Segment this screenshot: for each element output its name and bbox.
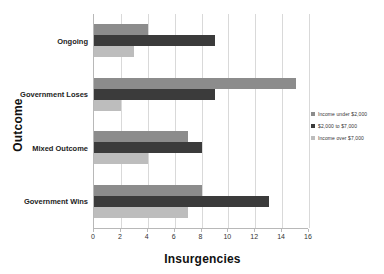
x-tick-label: 2 xyxy=(118,233,122,240)
bar[interactable] xyxy=(94,142,202,153)
x-tick xyxy=(93,229,94,232)
bar-group: Mixed Outcome xyxy=(94,125,308,171)
bar-row xyxy=(94,100,308,111)
x-tick xyxy=(120,229,121,232)
bar-row xyxy=(94,185,308,196)
legend-label: Income over $7,000 xyxy=(318,135,364,141)
x-axis: 0246810121416 xyxy=(93,228,308,247)
bar-row xyxy=(94,131,308,142)
bar-row xyxy=(94,24,308,35)
legend-item[interactable]: $2,000 to $7,000 xyxy=(311,123,383,129)
bar-groups: OngoingGovernment LosesMixed OutcomeGove… xyxy=(94,14,308,228)
bar-chart: Outcome OngoingGovernment LosesMixed Out… xyxy=(0,0,384,274)
legend-swatch-icon xyxy=(311,112,315,116)
x-tick xyxy=(254,229,255,232)
bar[interactable] xyxy=(94,100,121,111)
bar-row xyxy=(94,78,308,89)
x-axis-title: Insurgencies xyxy=(95,252,310,266)
category-label: Government Loses xyxy=(20,90,88,99)
bar[interactable] xyxy=(94,196,269,207)
legend-swatch-icon xyxy=(311,124,315,128)
x-tick-label: 10 xyxy=(223,233,231,240)
x-tick xyxy=(201,229,202,232)
bar[interactable] xyxy=(94,89,215,100)
category-label: Mixed Outcome xyxy=(32,143,88,152)
legend-item[interactable]: Income under $2,000 xyxy=(311,111,383,117)
x-tick-label: 8 xyxy=(199,233,203,240)
legend-label: $2,000 to $7,000 xyxy=(318,123,357,129)
bar-row xyxy=(94,196,308,207)
x-tick xyxy=(281,229,282,232)
x-tick-label: 16 xyxy=(304,233,312,240)
bar[interactable] xyxy=(94,24,148,35)
gridline xyxy=(309,14,310,228)
bar[interactable] xyxy=(94,78,296,89)
x-tick xyxy=(308,229,309,232)
legend-swatch-icon xyxy=(311,136,315,140)
bar[interactable] xyxy=(94,35,215,46)
category-label: Ongoing xyxy=(57,36,88,45)
bar-row xyxy=(94,46,308,57)
plot-area: OngoingGovernment LosesMixed OutcomeGove… xyxy=(93,14,308,228)
bar[interactable] xyxy=(94,153,148,164)
x-tick-label: 14 xyxy=(277,233,285,240)
bar-group: Government Loses xyxy=(94,71,308,117)
legend-label: Income under $2,000 xyxy=(318,111,367,117)
bar-group: Ongoing xyxy=(94,18,308,64)
x-tick xyxy=(147,229,148,232)
legend-item[interactable]: Income over $7,000 xyxy=(311,135,383,141)
x-tick-label: 4 xyxy=(145,233,149,240)
bar-row xyxy=(94,207,308,218)
x-tick-label: 0 xyxy=(91,233,95,240)
bar-row xyxy=(94,153,308,164)
bar[interactable] xyxy=(94,185,202,196)
bar-row xyxy=(94,35,308,46)
x-tick xyxy=(227,229,228,232)
legend: Income under $2,000$2,000 to $7,000Incom… xyxy=(311,111,383,147)
x-tick-label: 6 xyxy=(172,233,176,240)
bar-group: Government Wins xyxy=(94,178,308,224)
x-tick-label: 12 xyxy=(250,233,258,240)
bar-row xyxy=(94,89,308,100)
category-label: Government Wins xyxy=(24,197,88,206)
x-tick xyxy=(174,229,175,232)
bar[interactable] xyxy=(94,131,188,142)
bar-row xyxy=(94,142,308,153)
bar[interactable] xyxy=(94,46,134,57)
bar[interactable] xyxy=(94,207,188,218)
